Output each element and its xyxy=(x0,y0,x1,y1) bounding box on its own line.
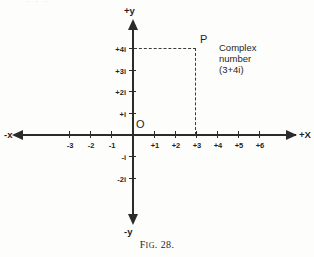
annotation-line-3: (3+4i) xyxy=(219,64,257,75)
y-tick-label: -2i xyxy=(104,175,126,184)
caption-number: . 28. xyxy=(155,239,175,250)
y-axis-negative-arrow-icon xyxy=(128,214,138,225)
x-axis-line xyxy=(16,134,296,136)
x-tick-label: +1 xyxy=(151,141,160,150)
y-tick-label: +i xyxy=(104,110,126,119)
annotation-line-2: number xyxy=(219,53,257,64)
x-axis-negative-label: -x xyxy=(4,129,12,140)
x-tick-mark xyxy=(175,131,176,138)
x-tick-label: +3 xyxy=(193,141,202,150)
y-tick-mark xyxy=(129,70,136,71)
y-axis-positive-arrow-icon xyxy=(128,19,138,30)
figure-caption: FIG. 28. xyxy=(0,239,314,250)
y-tick-mark xyxy=(129,113,136,114)
x-tick-label: +5 xyxy=(235,141,244,150)
x-tick-label: +2 xyxy=(172,141,181,150)
guide-line-horizontal xyxy=(134,48,196,49)
origin-label: O xyxy=(136,118,145,130)
y-tick-label: +2i xyxy=(104,88,126,97)
caption-ig: IG xyxy=(146,241,155,250)
x-tick-mark xyxy=(238,131,239,138)
x-tick-mark xyxy=(69,131,70,138)
x-tick-label: -2 xyxy=(88,141,95,150)
x-tick-label: -1 xyxy=(109,141,116,150)
page-bleed-text: · · · xyxy=(0,0,314,7)
x-tick-mark xyxy=(90,131,91,138)
annotation-line-1: Complex xyxy=(219,42,257,53)
x-tick-mark xyxy=(111,131,112,138)
y-axis-positive-label: +y xyxy=(124,5,135,16)
x-tick-label: +6 xyxy=(256,141,265,150)
y-axis-negative-label: -y xyxy=(124,226,132,237)
point-label-p: P xyxy=(200,33,207,45)
y-tick-label: +3i xyxy=(104,67,126,76)
x-axis-positive-label: +X xyxy=(299,129,311,140)
x-axis-positive-arrow-icon xyxy=(286,130,297,140)
y-tick-mark xyxy=(129,91,136,92)
x-tick-mark xyxy=(196,131,197,138)
x-tick-mark xyxy=(154,131,155,138)
x-tick-label: -3 xyxy=(67,141,74,150)
y-tick-mark xyxy=(129,178,136,179)
x-tick-mark xyxy=(259,131,260,138)
complex-plane-figure: · · · -x +X +y -y -3 -2 -1 +1 +2 +3 +4 +… xyxy=(0,0,314,257)
x-tick-mark xyxy=(217,131,218,138)
y-tick-mark xyxy=(129,156,136,157)
x-axis-negative-arrow-icon xyxy=(12,130,23,140)
guide-line-vertical xyxy=(195,48,196,135)
x-tick-label: +4 xyxy=(214,141,223,150)
y-tick-label: +4i xyxy=(104,45,126,54)
y-axis-line xyxy=(132,22,134,223)
complex-number-annotation: Complex number (3+4i) xyxy=(219,42,257,75)
y-tick-label: -i xyxy=(104,153,126,162)
